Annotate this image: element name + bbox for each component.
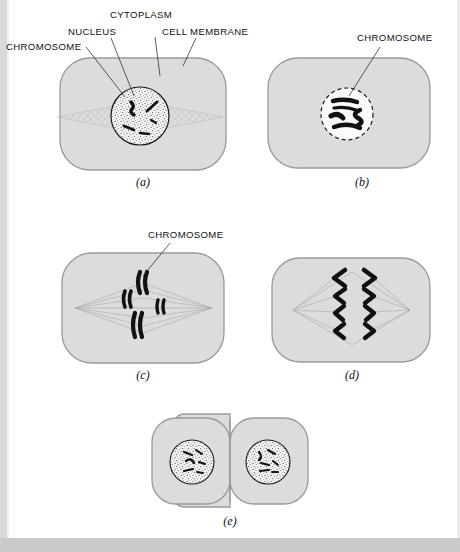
label-chromosome-b: CHROMOSOME [357,32,432,43]
label-chromosome-c: CHROMOSOME [148,229,223,240]
panel-letter-e: (e) [223,514,236,528]
label-chromosome-a: CHROMOSOME [6,41,81,52]
panel-b: CHROMOSOME (b) [268,32,432,189]
nucleus-b [321,88,373,140]
label-cytoplasm-a: CYTOPLASM [110,9,172,20]
nucleus-e-right [246,440,290,484]
nucleus-a [111,87,169,145]
panel-d: (d) [272,258,430,382]
panel-e: (e) [152,414,308,528]
panel-a: CHROMOSOME NUCLEUS CYTOPLASM CELL MEMBRA… [6,9,248,189]
panel-letter-b: (b) [355,175,369,189]
label-nucleus-a: NUCLEUS [68,26,116,37]
panel-letter-a: (a) [136,175,150,189]
panel-letter-d: (d) [345,368,359,382]
panel-letter-c: (c) [136,368,149,382]
figure-page: CHROMOSOME NUCLEUS CYTOPLASM CELL MEMBRA… [0,0,460,552]
label-cell-membrane-a: CELL MEMBRANE [162,26,248,37]
panel-c: CHROMOSOME (c) [62,229,224,382]
mitosis-figure: CHROMOSOME NUCLEUS CYTOPLASM CELL MEMBRA… [0,0,460,552]
